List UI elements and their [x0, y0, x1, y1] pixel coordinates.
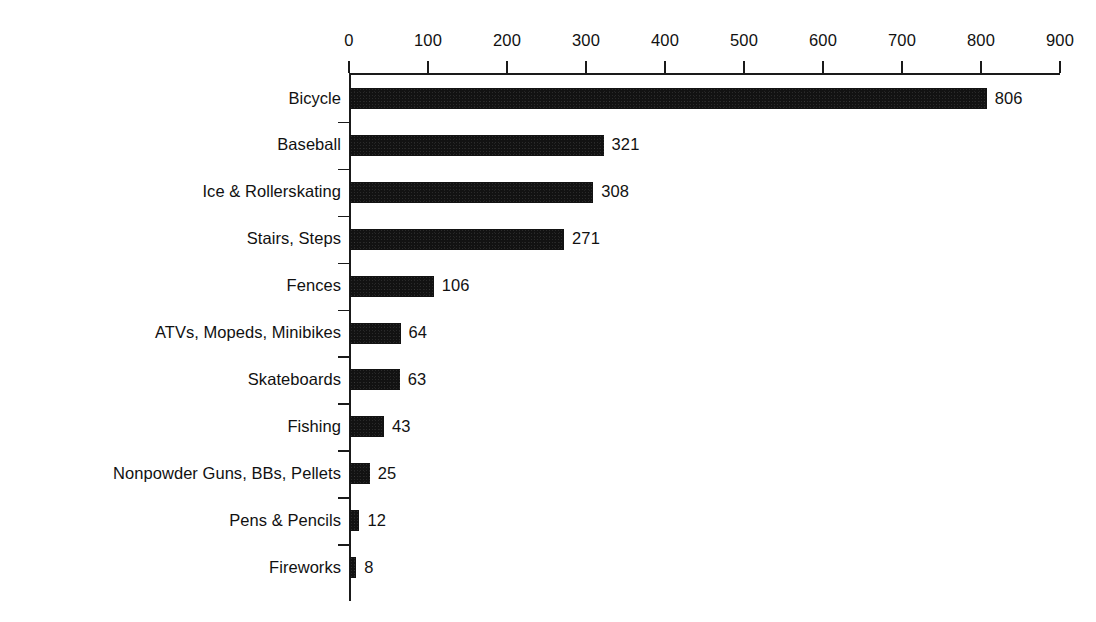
bar	[350, 416, 384, 437]
bar	[350, 369, 400, 390]
x-axis-tick-label: 600	[809, 31, 837, 50]
x-axis-tick	[743, 61, 745, 73]
bar	[350, 135, 604, 156]
category-label: Fireworks	[0, 558, 341, 577]
category-label: Ice & Rollerskating	[0, 182, 341, 201]
y-axis-tick	[338, 310, 349, 312]
y-axis-tick	[338, 544, 349, 546]
bar	[350, 323, 401, 344]
x-axis-tick	[585, 61, 587, 73]
x-axis-tick-label: 900	[1046, 31, 1074, 50]
bar	[350, 463, 370, 484]
bar-value-label: 308	[601, 182, 629, 201]
category-label: Baseball	[0, 135, 341, 154]
x-axis-tick-label: 400	[651, 31, 679, 50]
y-axis-tick	[338, 216, 349, 218]
category-label: ATVs, Mopeds, Minibikes	[0, 323, 341, 342]
x-axis-tick	[822, 61, 824, 73]
x-axis-tick	[427, 61, 429, 73]
y-axis-tick	[338, 169, 349, 171]
y-axis-tick	[338, 263, 349, 265]
x-axis-line	[349, 73, 1060, 75]
x-axis-tick	[1059, 61, 1061, 73]
x-axis-tick	[980, 61, 982, 73]
x-axis-tick-label: 800	[967, 31, 995, 50]
category-label: Fences	[0, 276, 341, 295]
bar	[350, 276, 434, 297]
y-axis-tick	[338, 450, 349, 452]
bar-chart: 0100200300400500600700800900 Bicycle806B…	[0, 0, 1096, 622]
y-axis-tick	[338, 497, 349, 499]
bar-value-label: 64	[409, 323, 428, 342]
bar-value-label: 8	[364, 558, 373, 577]
category-label: Pens & Pencils	[0, 511, 341, 530]
bar-value-label: 106	[442, 276, 470, 295]
x-axis-tick-label: 300	[572, 31, 600, 50]
bar-value-label: 63	[408, 370, 427, 389]
y-axis-tick	[338, 122, 349, 124]
bar	[350, 182, 593, 203]
x-axis-tick	[348, 61, 350, 73]
x-axis-tick-label: 500	[730, 31, 758, 50]
bar-value-label: 25	[378, 464, 397, 483]
bar	[350, 88, 987, 109]
bar-value-label: 43	[392, 417, 411, 436]
category-label: Bicycle	[0, 89, 341, 108]
bar	[350, 229, 564, 250]
bar-value-label: 321	[612, 135, 640, 154]
y-axis-tick	[338, 356, 349, 358]
category-label: Nonpowder Guns, BBs, Pellets	[0, 464, 341, 483]
bar	[350, 510, 359, 531]
bar	[350, 557, 356, 578]
x-axis-tick	[664, 61, 666, 73]
category-label: Stairs, Steps	[0, 229, 341, 248]
x-axis-tick-label: 100	[414, 31, 442, 50]
y-axis-tick	[338, 403, 349, 405]
category-label: Fishing	[0, 417, 341, 436]
x-axis-tick-label: 700	[888, 31, 916, 50]
bar-value-label: 12	[367, 511, 386, 530]
x-axis-tick-label: 200	[493, 31, 521, 50]
bar-value-label: 806	[995, 89, 1023, 108]
x-axis-tick	[506, 61, 508, 73]
x-axis-tick	[901, 61, 903, 73]
bar-value-label: 271	[572, 229, 600, 248]
category-label: Skateboards	[0, 370, 341, 389]
x-axis-tick-label: 0	[344, 31, 353, 50]
